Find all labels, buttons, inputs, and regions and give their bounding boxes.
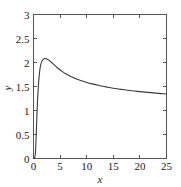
y-tick-label: 2.5: [16, 33, 30, 45]
y-axis-title: y: [1, 85, 13, 91]
x-tick-label: 20: [134, 160, 146, 172]
y-tick-label: 0.5: [16, 129, 30, 141]
y-tick-label: 3: [24, 9, 30, 21]
x-tick-label: 0: [31, 160, 37, 172]
y-tick-label: 1: [24, 105, 30, 117]
figure-container: 0510152025 00.511.522.53 x y: [0, 0, 181, 187]
x-tick-label: 25: [161, 160, 173, 172]
x-tick-label: 10: [81, 160, 93, 172]
x-tick-labels: 0510152025: [31, 160, 173, 172]
y-tick-label: 0: [24, 153, 30, 165]
y-tick-label: 2: [24, 57, 30, 69]
x-tick-label: 15: [108, 160, 120, 172]
x-axis-title: x: [97, 173, 103, 185]
line-chart: 0510152025 00.511.522.53 x y: [0, 0, 181, 187]
plot-background: [33, 14, 167, 159]
y-tick-label: 1.5: [16, 81, 30, 93]
y-tick-labels: 00.511.522.53: [16, 9, 30, 165]
x-tick-label: 5: [57, 160, 63, 172]
